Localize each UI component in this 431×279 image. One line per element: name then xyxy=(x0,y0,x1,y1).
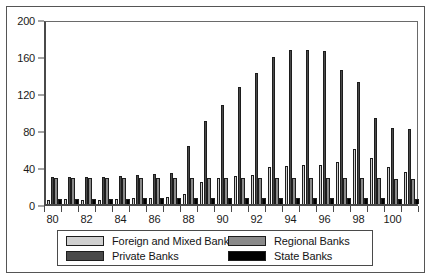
legend-label-private-banks: Private Banks xyxy=(112,250,179,262)
y-axis: 04080120160200 xyxy=(0,21,44,206)
x-axis-tick-mark xyxy=(129,206,130,212)
bar xyxy=(415,199,418,204)
bar-group xyxy=(353,22,368,204)
bar xyxy=(364,198,367,204)
figure-container: 04080120160200 80828486889092949698100 F… xyxy=(0,0,431,279)
x-axis-tick-mark xyxy=(299,206,300,212)
x-axis-tick-mark xyxy=(214,206,215,212)
y-axis-tick-label: 0 xyxy=(29,200,35,212)
legend-label-state-banks: State Banks xyxy=(274,250,332,262)
bar-group xyxy=(251,22,266,204)
x-axis-tick-mark xyxy=(316,206,317,212)
x-axis-tick-mark xyxy=(350,206,351,212)
bar-group xyxy=(370,22,385,204)
x-axis-tick-mark xyxy=(231,206,232,212)
x-axis-tick-label: 90 xyxy=(217,213,229,225)
y-axis-tick-label: 80 xyxy=(23,126,35,138)
bar xyxy=(58,199,61,204)
bar-group xyxy=(183,22,198,204)
bar xyxy=(245,198,248,204)
x-axis-tick-mark xyxy=(197,206,198,212)
bar-group xyxy=(404,22,419,204)
x-axis-tick-mark xyxy=(265,206,266,212)
bar xyxy=(279,198,282,204)
bar xyxy=(194,198,197,204)
bar-group xyxy=(234,22,249,204)
legend-label-foreign-and-mixed-banks: Foreign and Mixed Banks xyxy=(112,235,234,247)
bar-group xyxy=(319,22,334,204)
bar xyxy=(381,198,384,204)
bar xyxy=(228,198,231,204)
x-axis-tick-mark xyxy=(61,206,62,212)
bar-group xyxy=(115,22,130,204)
legend-label-regional-banks: Regional Banks xyxy=(274,235,350,247)
x-axis-tick-label: 84 xyxy=(115,213,127,225)
x-axis-tick-label: 82 xyxy=(81,213,93,225)
chart-legend: Foreign and Mixed Banks Private Banks Re… xyxy=(57,230,373,266)
x-axis-tick-mark xyxy=(112,206,113,212)
bar-group xyxy=(47,22,62,204)
bar-group xyxy=(336,22,351,204)
x-axis-tick-mark xyxy=(146,206,147,212)
bar xyxy=(330,198,333,204)
x-axis-tick-label: 80 xyxy=(47,213,59,225)
bar xyxy=(313,198,316,204)
x-axis-tick-mark xyxy=(384,206,385,212)
x-axis-tick-mark xyxy=(180,206,181,212)
legend-item-state-banks: State Banks xyxy=(228,249,350,263)
x-axis-tick-mark xyxy=(401,206,402,212)
y-axis-tick-label: 40 xyxy=(23,163,35,175)
bar xyxy=(296,198,299,204)
bar xyxy=(262,198,265,204)
bar xyxy=(177,198,180,204)
legend-swatch-state-banks xyxy=(228,251,266,261)
x-axis-tick-label: 92 xyxy=(251,213,263,225)
bar xyxy=(398,199,401,204)
legend-column-left: Foreign and Mixed Banks Private Banks xyxy=(66,234,234,264)
bar-group xyxy=(132,22,147,204)
bar-group xyxy=(387,22,402,204)
x-axis-tick-mark xyxy=(333,206,334,212)
x-axis-tick-mark xyxy=(418,206,419,212)
bar xyxy=(160,198,163,204)
x-axis-tick-mark xyxy=(95,206,96,212)
x-axis-tick-label: 88 xyxy=(183,213,195,225)
bar-group xyxy=(98,22,113,204)
bar xyxy=(347,198,350,204)
x-axis-tick-label: 96 xyxy=(319,213,331,225)
legend-swatch-foreign-and-mixed-banks xyxy=(66,236,104,246)
bar xyxy=(109,199,112,204)
x-axis-tick-mark xyxy=(282,206,283,212)
bar-group xyxy=(64,22,79,204)
x-axis-tick-label: 86 xyxy=(149,213,161,225)
y-axis-tick-label: 120 xyxy=(17,89,35,101)
bar xyxy=(75,199,78,204)
bar-group xyxy=(268,22,283,204)
x-axis-tick-label: 94 xyxy=(285,213,297,225)
y-axis-tick-label: 160 xyxy=(17,52,35,64)
x-axis-tick-label: 98 xyxy=(353,213,365,225)
x-axis-tick-mark xyxy=(367,206,368,212)
legend-item-regional-banks: Regional Banks xyxy=(228,234,350,248)
bars-layer xyxy=(46,22,417,204)
legend-column-right: Regional Banks State Banks xyxy=(228,234,350,264)
x-axis-tick-mark xyxy=(248,206,249,212)
bar-group xyxy=(200,22,215,204)
bar xyxy=(143,198,146,204)
bar xyxy=(126,199,129,204)
y-axis-tick-label: 200 xyxy=(17,15,35,27)
bar-group xyxy=(149,22,164,204)
bar-group xyxy=(285,22,300,204)
bar-group xyxy=(217,22,232,204)
x-axis-tick-mark xyxy=(78,206,79,212)
x-axis-tick-mark xyxy=(44,206,45,212)
legend-swatch-private-banks xyxy=(66,251,104,261)
x-axis-tick-mark xyxy=(163,206,164,212)
x-axis-tick-label: 100 xyxy=(384,213,402,225)
x-axis: 80828486889092949698100 xyxy=(44,206,418,230)
bar xyxy=(92,199,95,204)
bar-group xyxy=(166,22,181,204)
legend-item-foreign-and-mixed-banks: Foreign and Mixed Banks xyxy=(66,234,234,248)
bar xyxy=(211,198,214,204)
bar-group xyxy=(81,22,96,204)
